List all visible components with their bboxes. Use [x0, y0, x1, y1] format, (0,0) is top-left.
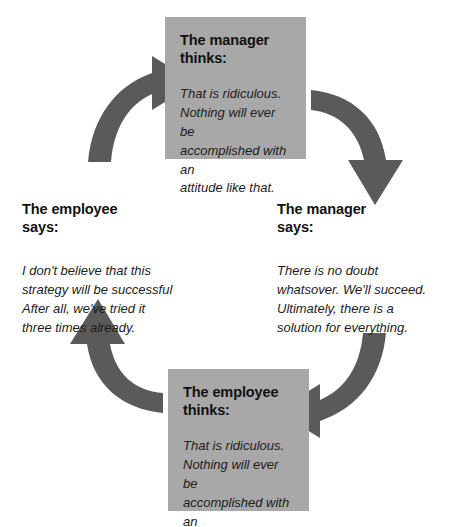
- node-manager-says-body: There is no doubt whatsover. We'll succe…: [277, 262, 466, 337]
- arrow-top-to-right-icon: [311, 90, 403, 205]
- node-employee-thinks: The employee thinks: That is ridiculous.…: [168, 369, 309, 511]
- node-employee-says: The employee says: I don't believe that …: [22, 200, 187, 338]
- node-manager-thinks-body: That is ridiculous. Nothing will ever be…: [180, 85, 291, 198]
- node-manager-thinks: The manager thinks: That is ridiculous. …: [165, 17, 306, 159]
- cycle-diagram: The manager thinks: That is ridiculous. …: [0, 0, 466, 527]
- node-employee-thinks-heading: The employee thinks:: [183, 383, 294, 419]
- node-manager-says-heading: The manager says:: [277, 200, 466, 236]
- node-employee-says-heading: The employee says:: [22, 200, 187, 236]
- node-manager-thinks-heading: The manager thinks:: [180, 31, 291, 67]
- node-employee-thinks-body: That is ridiculous. Nothing will ever be…: [183, 437, 294, 527]
- node-employee-says-body: I don't believe that this strategy will …: [22, 262, 187, 337]
- node-manager-says: The manager says: There is no doubt what…: [277, 200, 466, 338]
